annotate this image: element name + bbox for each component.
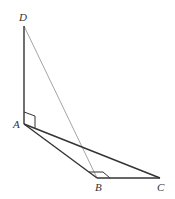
label-b: B — [95, 181, 102, 193]
label-a: A — [12, 118, 20, 130]
label-d: D — [18, 11, 27, 23]
label-c: C — [157, 181, 165, 193]
segment-ac — [24, 124, 160, 178]
segment-db — [24, 26, 97, 178]
geometry-diagram: D A B C — [0, 0, 175, 199]
segment-ab — [24, 124, 97, 178]
